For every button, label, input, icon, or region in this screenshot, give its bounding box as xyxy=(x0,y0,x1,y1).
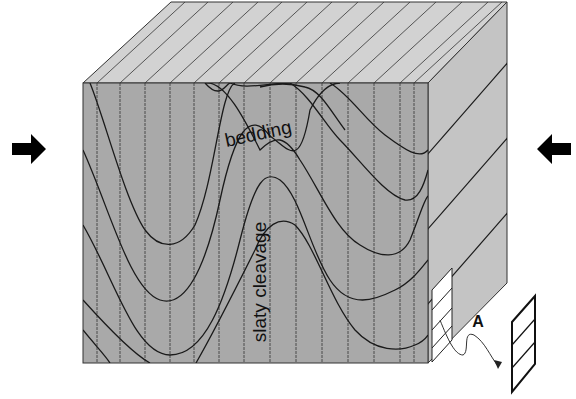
sample-label: A xyxy=(472,313,484,330)
compression-arrow-right-icon xyxy=(12,134,46,164)
cleavage-text: slaty cleavage xyxy=(249,222,270,342)
compression-arrow-left-icon xyxy=(537,134,571,164)
slaty-cleavage-diagram: bedding slaty cleavage A xyxy=(0,0,576,399)
cleavage-label: slaty cleavage xyxy=(249,222,270,342)
extracted-sample xyxy=(512,296,535,392)
